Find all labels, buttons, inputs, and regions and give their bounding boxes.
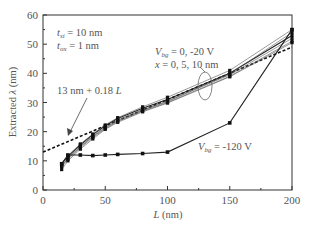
data-point (91, 137, 94, 140)
y-tick-label: 40 (27, 67, 39, 79)
data-point (66, 153, 70, 157)
data-point (116, 121, 119, 124)
y-tick-label: 0 (33, 184, 39, 196)
data-point (104, 123, 107, 126)
data-point (79, 148, 82, 151)
data-point (104, 128, 107, 131)
x-tick-label: 100 (159, 194, 176, 206)
data-point (141, 110, 144, 113)
y-tick-label: 30 (27, 97, 39, 109)
data-point (228, 121, 232, 125)
y-axis-label: Extracted λ (nm) (7, 66, 19, 137)
x-annotation: x = 0, 5, 10 nm (154, 59, 218, 70)
vbg-0-20-annotation: Vbg = 0, -20 V (155, 46, 215, 59)
data-point (228, 75, 231, 78)
x-tick-label: 150 (222, 194, 239, 206)
x-tick-label: 0 (40, 194, 46, 206)
y-tick-label: 60 (27, 9, 39, 21)
fit-arrow (70, 98, 87, 132)
data-point (228, 69, 231, 72)
x-tick-label: 200 (284, 194, 301, 206)
data-point (141, 105, 144, 108)
data-point (290, 41, 293, 44)
data-point (141, 152, 145, 156)
data-point (91, 154, 95, 158)
y-tick-label: 50 (27, 38, 39, 50)
data-point (228, 72, 231, 75)
data-point (290, 28, 294, 32)
data-point (116, 153, 120, 157)
data-point (79, 153, 83, 157)
vbg-120-annotation: Vbg = -120 V (198, 141, 252, 154)
tsi-annotation: tsi = 10 nm (57, 27, 102, 40)
data-point (66, 159, 69, 162)
data-point (166, 96, 169, 99)
y-tick-label: 10 (27, 155, 39, 167)
data-point (290, 34, 293, 37)
data-point (103, 153, 107, 157)
data-point (290, 37, 293, 40)
data-point (60, 162, 64, 166)
data-point (166, 101, 169, 104)
data-point (60, 168, 63, 171)
fit-annotation: 13 nm + 0.18 L (57, 85, 122, 96)
x-axis-label: L (nm) (153, 209, 183, 221)
chart: 0501001502000102030405060 Extracted λ (n… (0, 0, 313, 230)
x-tick-label: 50 (100, 194, 112, 206)
data-point (166, 150, 170, 154)
data-point (79, 142, 82, 145)
tick-labels: 0501001502000102030405060 (27, 9, 301, 206)
data-point (116, 116, 119, 119)
series-line (62, 38, 292, 165)
fit-arrowhead-icon (67, 128, 73, 136)
y-tick-label: 20 (27, 126, 39, 138)
tox-annotation: tox = 1 nm (57, 40, 99, 53)
